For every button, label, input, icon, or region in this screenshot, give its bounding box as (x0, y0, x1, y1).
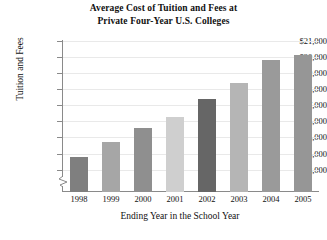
bar-2005 (294, 55, 312, 192)
bar-2002 (198, 99, 216, 192)
gridline (63, 105, 319, 106)
chart-title-line-1: Average Cost of Tuition and Fees at (0, 2, 327, 15)
bar-2001 (166, 117, 184, 192)
gridline (63, 89, 319, 90)
gridline (63, 73, 319, 74)
chart-title: Average Cost of Tuition and Fees at Priv… (0, 2, 327, 27)
chart-title-line-2: Private Four-Year U.S. Colleges (0, 15, 327, 28)
bar-1999 (102, 142, 120, 192)
bar-2004 (262, 60, 280, 192)
y-axis-label: Tuition and Fees (15, 4, 25, 134)
x-axis-line (62, 191, 319, 192)
gridline (63, 137, 319, 138)
axis-break-icon (58, 176, 68, 187)
x-tick-label-2005: 2005 (283, 195, 323, 204)
bar-2003 (230, 83, 248, 192)
bar-1998 (70, 157, 88, 192)
gridline (63, 57, 319, 58)
x-axis-label: Ending Year in the School Year (40, 211, 320, 221)
plot-area (63, 41, 319, 176)
bar-2000 (134, 128, 152, 192)
gridline (63, 121, 319, 122)
gridline (63, 41, 319, 42)
tuition-bar-chart: Average Cost of Tuition and Fees at Priv… (0, 0, 327, 240)
